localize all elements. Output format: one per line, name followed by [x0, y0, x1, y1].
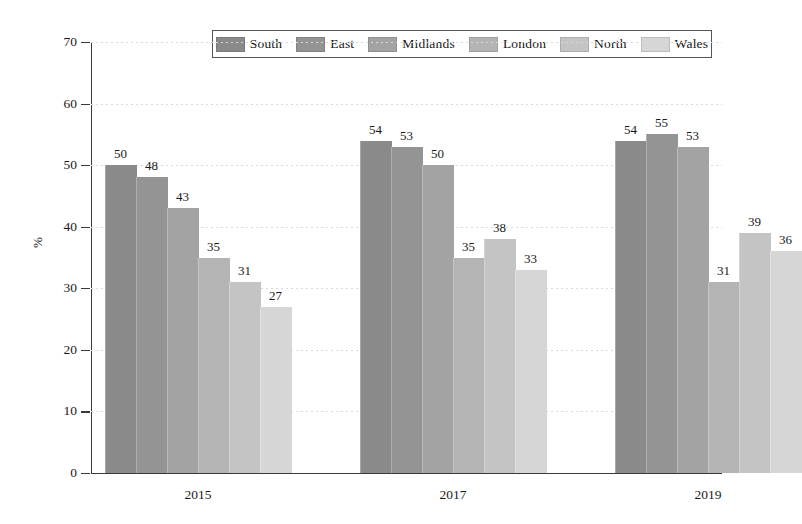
bar-south-2017[interactable] [360, 141, 392, 473]
bar-value-label: 36 [770, 232, 801, 248]
bar-value-label: 53 [677, 128, 708, 144]
y-axis-tick [81, 104, 90, 105]
bar-wales-2019[interactable] [770, 251, 802, 473]
bar-value-label: 50 [422, 146, 453, 162]
bar-group-2019: 545553313936 [615, 42, 801, 473]
bar-value-label: 35 [453, 239, 484, 255]
y-axis-tick [81, 42, 90, 43]
bar-value-label: 33 [515, 251, 546, 267]
bar-london-2017[interactable] [453, 258, 485, 474]
bar-value-label: 48 [136, 158, 167, 174]
bar-value-label: 55 [646, 115, 677, 131]
y-axis-tick [81, 165, 90, 166]
y-axis-tick-label: 60 [64, 96, 78, 112]
bar-wales-2017[interactable] [515, 270, 547, 473]
bar-group-2017: 545350353833 [360, 42, 546, 473]
x-axis-line [91, 473, 722, 474]
bar-value-label: 54 [615, 122, 646, 138]
bar-value-label: 35 [198, 239, 229, 255]
bar-value-label: 50 [105, 146, 136, 162]
bar-east-2015[interactable] [136, 177, 168, 473]
y-axis-tick [81, 350, 90, 351]
bar-value-label: 53 [391, 128, 422, 144]
y-axis-tick-label: 10 [64, 403, 78, 419]
plot-area: 0102030405060705048433531275453503538335… [91, 42, 722, 473]
y-axis-tick [81, 288, 90, 289]
x-axis-tick-label: 2019 [695, 487, 722, 503]
y-axis-label: % [30, 237, 46, 248]
bar-london-2019[interactable] [708, 282, 740, 473]
bar-midlands-2019[interactable] [677, 147, 709, 473]
x-axis-tick-label: 2015 [185, 487, 212, 503]
y-axis-tick-label: 40 [64, 219, 78, 235]
bar-value-label: 43 [167, 189, 198, 205]
bar-north-2017[interactable] [484, 239, 516, 473]
y-axis-tick-label: 50 [64, 157, 78, 173]
bar-value-label: 38 [484, 220, 515, 236]
bar-group-2015: 504843353127 [105, 42, 291, 473]
bar-midlands-2017[interactable] [422, 165, 454, 473]
bar-north-2019[interactable] [739, 233, 771, 473]
bar-value-label: 31 [708, 263, 739, 279]
y-axis-tick-label: 30 [64, 280, 78, 296]
y-axis-tick [81, 473, 90, 474]
x-axis-tick-label: 2017 [440, 487, 467, 503]
bar-south-2015[interactable] [105, 165, 137, 473]
bar-value-label: 31 [229, 263, 260, 279]
bar-value-label: 27 [260, 288, 291, 304]
bar-south-2019[interactable] [615, 141, 647, 473]
bar-north-2015[interactable] [229, 282, 261, 473]
y-axis-tick-label: 20 [64, 342, 78, 358]
bar-london-2015[interactable] [198, 258, 230, 474]
bar-east-2019[interactable] [646, 134, 678, 473]
y-axis-tick-label: 0 [70, 465, 77, 481]
bar-wales-2015[interactable] [260, 307, 292, 473]
bar-east-2017[interactable] [391, 147, 423, 473]
y-axis-tick-label: 70 [64, 34, 78, 50]
y-axis-tick [81, 227, 90, 228]
bar-midlands-2015[interactable] [167, 208, 199, 473]
y-axis-tick [81, 411, 90, 412]
bar-value-label: 39 [739, 214, 770, 230]
bar-value-label: 54 [360, 122, 391, 138]
